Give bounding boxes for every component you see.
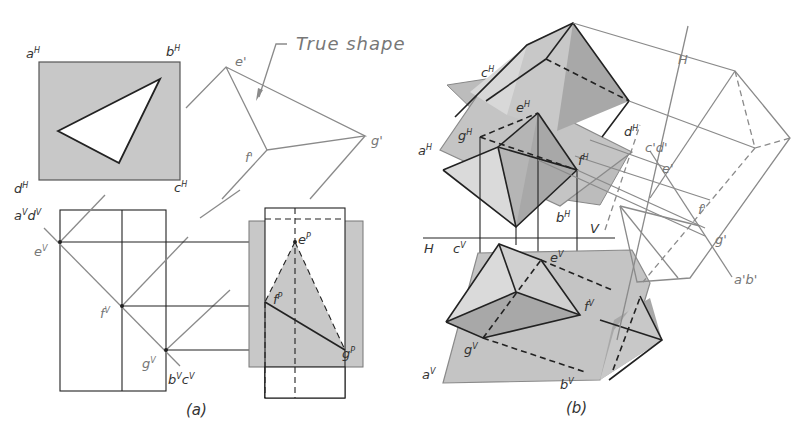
label-cd1: c'd' <box>645 140 668 155</box>
label-V-line: V <box>590 221 600 236</box>
label-ab1: a'b' <box>734 272 757 287</box>
label-bVcV: bVcV <box>168 372 195 387</box>
panel-b <box>423 23 790 383</box>
label-e1: e' <box>235 54 247 69</box>
panel-a <box>39 44 365 398</box>
caption-a: (a) <box>186 401 207 419</box>
label-fV: fV <box>100 306 111 321</box>
caption-b: (b) <box>566 399 587 417</box>
label-g1-b: g' <box>715 232 727 247</box>
label-f1-b: f' <box>698 202 706 217</box>
label-aV-b: aV <box>422 367 436 382</box>
label-eV: eV <box>34 244 48 259</box>
label-f1: f' <box>245 150 253 165</box>
label-dH-b: dH <box>624 124 638 139</box>
label-bH-b: bH <box>556 210 570 225</box>
fold-line-h1 <box>617 26 688 340</box>
label-gV: gV <box>142 356 156 371</box>
label-aH-b: aH <box>418 143 432 158</box>
label-bH: bH <box>166 44 180 59</box>
label-H-axis: H <box>424 241 434 256</box>
label-H-line: H <box>678 52 688 67</box>
label-dH: dH <box>14 181 28 196</box>
label-cH: cH <box>174 180 187 195</box>
label-e1-b: e' <box>662 161 674 176</box>
label-cV-b: cV <box>453 241 466 256</box>
annotation-true-shape: True shape <box>296 33 406 54</box>
label-g1: g' <box>371 133 383 148</box>
label-bV-b: bV <box>560 377 574 392</box>
arrow-head-icon <box>256 88 263 101</box>
annotation-leader <box>259 44 287 97</box>
true-shape-view <box>186 44 365 199</box>
figure-canvas: aH bH dH cH True shape e' f' g' aVdV eV … <box>0 0 807 436</box>
label-aH: aH <box>26 46 40 61</box>
label-aVdV: aVdV <box>14 208 42 223</box>
